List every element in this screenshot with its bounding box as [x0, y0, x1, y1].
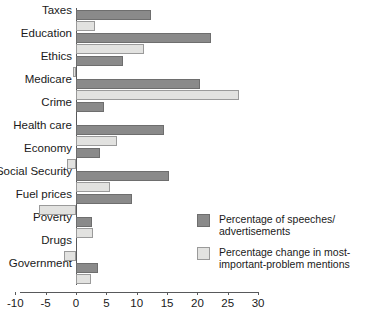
bar-health-care-series2 — [76, 136, 117, 146]
x-axis-line — [20, 292, 259, 293]
category-label-social-security: Social Security — [0, 165, 72, 177]
category-label-taxes: Taxes — [42, 4, 72, 16]
bar-ethics-series1 — [76, 56, 123, 66]
category-label-health-care: Health care — [13, 119, 72, 131]
legend-label-mip-change-line1: Percentage change in most- — [219, 246, 350, 258]
x-tick-20 — [197, 292, 198, 295]
x-tick-label--10: -10 — [7, 297, 24, 310]
bar-government-series2 — [76, 274, 91, 284]
x-tick-label-20: 20 — [191, 297, 204, 310]
x-tick--5 — [46, 292, 47, 295]
x-tick--10 — [15, 292, 16, 295]
bar-drugs-series2 — [64, 251, 76, 261]
x-tick-label-15: 15 — [161, 297, 174, 310]
bar-education-series2 — [76, 44, 144, 54]
bar-ethics-series2 — [73, 67, 76, 77]
category-label-ethics: Ethics — [41, 50, 72, 62]
legend-swatch-dark — [197, 214, 210, 227]
category-label-education: Education — [21, 27, 72, 39]
bar-economy-series2 — [67, 159, 76, 169]
legend-swatch-light — [197, 247, 210, 260]
legend-item-mip-change: Percentage change in most- important-pro… — [197, 246, 367, 270]
legend-label-speeches-line2: advertisements — [219, 225, 290, 237]
bar-crime-series1 — [76, 102, 104, 112]
bar-social-security-series1 — [76, 171, 169, 181]
x-tick-30 — [258, 292, 259, 295]
x-tick-label-10: 10 — [130, 297, 143, 310]
chart-legend: Percentage of speeches/ advertisements P… — [197, 213, 367, 279]
bar-government-series1 — [76, 263, 98, 273]
x-tick-label-0: 0 — [73, 297, 79, 310]
bar-medicare-series1 — [76, 79, 200, 89]
x-tick-label-25: 25 — [221, 297, 234, 310]
legend-label-speeches-line1: Percentage of speeches/ — [219, 213, 335, 225]
x-tick-label-5: 5 — [103, 297, 109, 310]
legend-label-speeches: Percentage of speeches/ advertisements — [219, 213, 335, 237]
x-tick-15 — [167, 292, 168, 295]
x-tick-5 — [106, 292, 107, 295]
bar-social-security-series2 — [76, 182, 110, 192]
category-label-crime: Crime — [41, 96, 72, 108]
x-tick-25 — [228, 292, 229, 295]
category-label-fuel-prices: Fuel prices — [16, 188, 72, 200]
x-tick-label-30: 30 — [252, 297, 265, 310]
bar-taxes-series2 — [76, 21, 95, 31]
x-tick-10 — [137, 292, 138, 295]
bar-poverty-series2 — [76, 228, 93, 238]
category-label-drugs: Drugs — [41, 234, 72, 246]
bar-health-care-series1 — [76, 125, 164, 135]
category-label-economy: Economy — [24, 142, 72, 154]
bar-fuel-prices-series1 — [76, 194, 132, 204]
bar-economy-series1 — [76, 148, 100, 158]
bar-medicare-series2 — [76, 90, 239, 100]
bar-fuel-prices-series2 — [39, 205, 76, 215]
legend-item-speeches: Percentage of speeches/ advertisements — [197, 213, 367, 237]
bar-poverty-series1 — [76, 217, 92, 227]
legend-label-mip-change: Percentage change in most- important-pro… — [219, 246, 350, 270]
category-label-column: Taxes Education Ethics Medicare Crime He… — [0, 0, 72, 285]
x-tick-label--5: -5 — [41, 297, 51, 310]
x-tick-0 — [76, 292, 77, 295]
category-label-medicare: Medicare — [25, 73, 72, 85]
grouped-bar-chart: Taxes Education Ethics Medicare Crime He… — [0, 0, 368, 319]
bar-education-series1 — [76, 33, 211, 43]
legend-label-mip-change-line2: important-problem mentions — [219, 258, 350, 270]
category-label-government: Government — [9, 257, 72, 269]
bar-taxes-series1 — [76, 10, 151, 20]
